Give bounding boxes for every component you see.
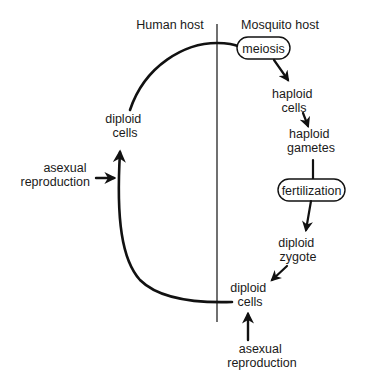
meiosis-to-haploid-cells-arrow bbox=[274, 60, 288, 80]
diploid-cells-mosquito-label: diploid cells bbox=[230, 281, 270, 309]
mosquito-asexual-line1: asexual bbox=[239, 342, 282, 356]
diploid-zygote-label: diploid zygote bbox=[278, 236, 318, 264]
diploid-cells-human-label: diploid cells bbox=[105, 112, 145, 140]
diploid-cells-human-line1: diploid bbox=[105, 112, 141, 126]
fertilization-to-zygote-arrow bbox=[306, 201, 311, 230]
diploid-cells-mosquito-line1: diploid bbox=[230, 281, 266, 295]
diploid-zygote-line2: zygote bbox=[280, 250, 317, 264]
top-arc bbox=[130, 43, 240, 110]
diploid-cells-human-line2: cells bbox=[112, 126, 137, 140]
human-asexual-label: asexual reproduction bbox=[21, 161, 91, 189]
mosquito-host-label: Mosquito host bbox=[241, 18, 319, 32]
fertilization-label: fertilization bbox=[282, 184, 342, 198]
haploid-gametes-line2: gametes bbox=[287, 141, 335, 155]
diploid-zygote-line1: diploid bbox=[278, 236, 314, 250]
haploid-gametes-line1: haploid bbox=[289, 127, 329, 141]
haploid-cells-label: haploid cells bbox=[272, 87, 316, 115]
bottom-arc-arrow bbox=[119, 152, 232, 302]
life-cycle-diagram: Human host Mosquito host meiosis haploid… bbox=[0, 0, 365, 386]
human-asexual-line1: asexual bbox=[43, 161, 86, 175]
diploid-cells-mosquito-line2: cells bbox=[237, 295, 262, 309]
human-asexual-line2: reproduction bbox=[21, 175, 91, 189]
human-host-label: Human host bbox=[136, 18, 204, 32]
haploid-gametes-label: haploid gametes bbox=[287, 127, 335, 155]
meiosis-label: meiosis bbox=[242, 42, 284, 56]
haploid-cells-line1: haploid bbox=[272, 87, 312, 101]
mosquito-asexual-label: asexual reproduction bbox=[227, 342, 297, 370]
mosquito-asexual-line2: reproduction bbox=[227, 356, 297, 370]
zygote-to-diploid-cells-arrow bbox=[272, 266, 287, 280]
